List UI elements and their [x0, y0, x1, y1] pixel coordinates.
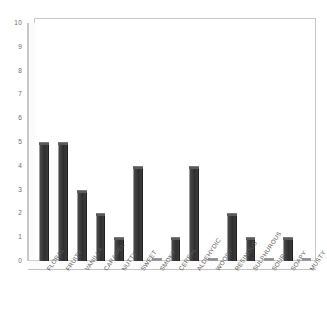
bar-chart: 109876543210 FLORALFRUITYVANILLACARAMELN… [0, 0, 327, 326]
bar-slot [283, 23, 293, 261]
bar-top-face [96, 213, 106, 216]
bar-top-face [227, 213, 237, 216]
bar-top-face [189, 166, 199, 169]
y-tick-label: 5 [18, 139, 22, 146]
bar-slot [302, 23, 312, 261]
plot-area [28, 18, 316, 270]
bar-slot [58, 23, 68, 261]
plot-left-wall [28, 23, 35, 270]
y-tick-label: 9 [18, 44, 22, 51]
bar-slot [114, 23, 124, 261]
y-tick-label: 4 [18, 163, 22, 170]
y-tick-label: 10 [14, 20, 22, 27]
bar-top-face [58, 142, 68, 145]
bar-top-face [133, 166, 143, 169]
bar-slot [264, 23, 274, 261]
bar-top-face [77, 190, 87, 193]
y-tick-label: 8 [18, 67, 22, 74]
bar [133, 166, 143, 261]
bar-slot [39, 23, 49, 261]
bar-top-face [283, 237, 293, 240]
bar-slot [208, 23, 218, 261]
y-tick-label: 7 [18, 91, 22, 98]
bar-top-face [114, 237, 124, 240]
bar [39, 142, 49, 261]
bars-layer [35, 23, 316, 261]
bar-slot [227, 23, 237, 261]
bar-top-face [171, 237, 181, 240]
bar-slot [77, 23, 87, 261]
bar-slot [96, 23, 106, 261]
bar-top-face [39, 142, 49, 145]
bar-slot [171, 23, 181, 261]
y-tick-label: 0 [18, 258, 22, 265]
bar-slot [189, 23, 199, 261]
bar-slot [246, 23, 256, 261]
x-axis-labels: FLORALFRUITYVANILLACARAMELNUTTYSWEETSMOK… [28, 268, 316, 326]
y-tick-label: 6 [18, 115, 22, 122]
y-tick-label: 3 [18, 186, 22, 193]
bar-slot [152, 23, 162, 261]
bar [58, 142, 68, 261]
y-tick-label: 2 [18, 210, 22, 217]
y-tick-label: 1 [18, 234, 22, 241]
y-axis: 109876543210 [0, 18, 28, 270]
bar-slot [133, 23, 143, 261]
